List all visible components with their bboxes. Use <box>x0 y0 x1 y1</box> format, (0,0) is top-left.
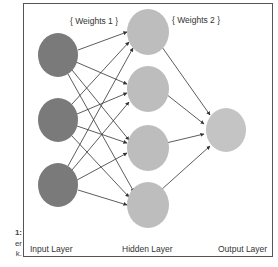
neural-network-diagram: { Weights 1 } { Weights 2 } Input Layer … <box>0 0 278 267</box>
hidden-node-3 <box>127 125 169 171</box>
input-node-1 <box>38 33 78 77</box>
hidden-layer-nodes <box>127 9 169 228</box>
input-layer-label: Input Layer <box>30 244 73 254</box>
output-layer-nodes <box>206 108 246 152</box>
hidden-node-4 <box>127 182 169 228</box>
weights2-edges <box>161 47 210 190</box>
input-node-2 <box>38 98 78 142</box>
hidden-node-1 <box>127 9 169 55</box>
weights2-label: { Weights 2 } <box>172 15 220 25</box>
hidden-layer-label: Hidden Layer <box>122 244 173 254</box>
output-node-1 <box>206 108 246 152</box>
hidden-node-2 <box>127 66 169 112</box>
output-layer-label: Output Layer <box>218 244 267 254</box>
input-node-3 <box>38 163 78 207</box>
weights1-label: { Weights 1 } <box>70 16 118 26</box>
input-layer-nodes <box>38 33 78 207</box>
